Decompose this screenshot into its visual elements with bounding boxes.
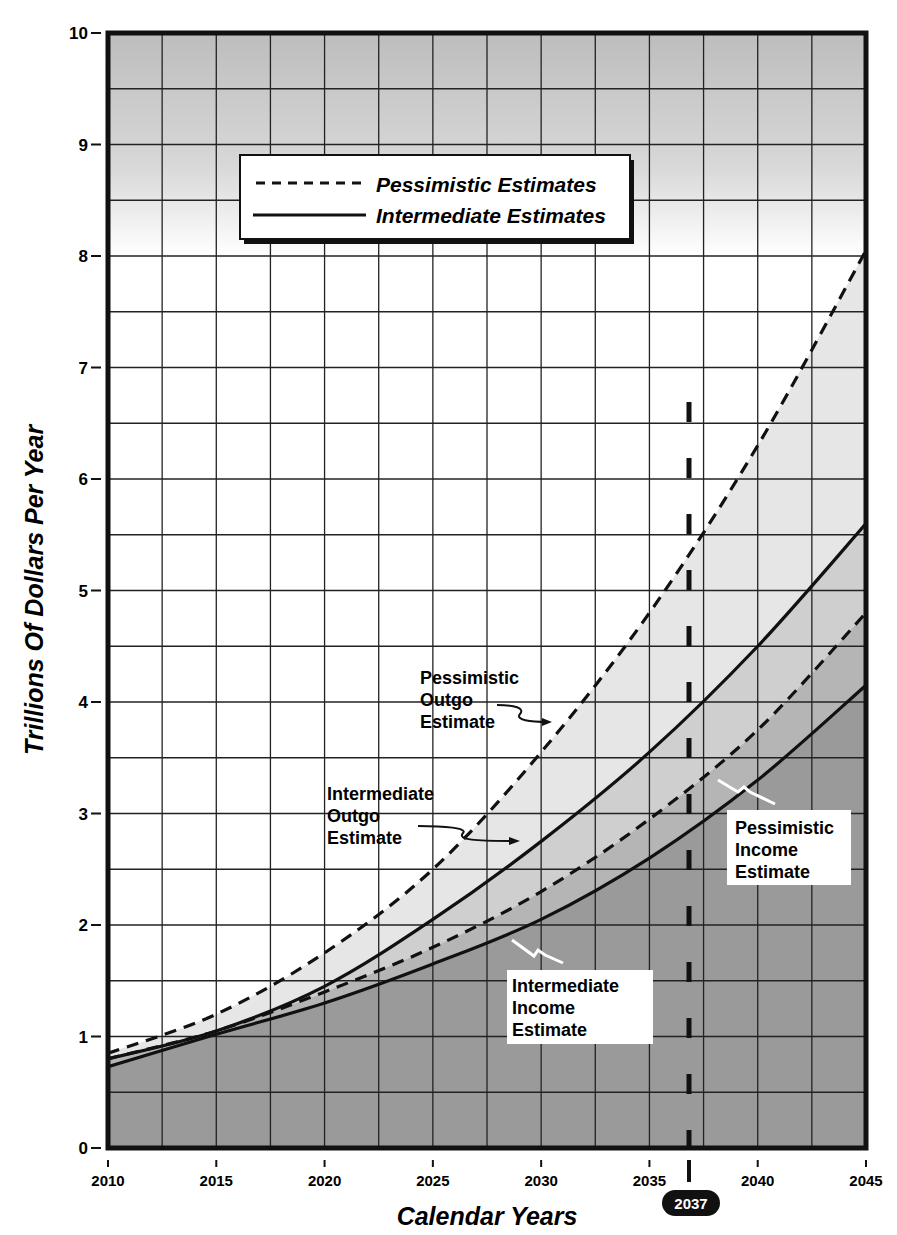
y-tick-label: 4: [79, 693, 89, 712]
chart: 012345678910 201020152020202520302035204…: [0, 0, 897, 1235]
legend: Pessimistic Estimates Intermediate Estim…: [240, 155, 634, 244]
svg-text:Estimate: Estimate: [512, 1020, 587, 1040]
svg-text:Outgo: Outgo: [327, 806, 380, 826]
svg-text:Pessimistic: Pessimistic: [735, 818, 834, 838]
y-tick-label: 9: [79, 136, 88, 155]
svg-text:Estimate: Estimate: [735, 862, 810, 882]
y-tick-label: 8: [79, 247, 88, 266]
y-tick-label: 1: [79, 1028, 88, 1047]
marker-label: 2037: [674, 1195, 707, 1212]
x-tick-label: 2025: [416, 1172, 449, 1189]
x-tick-label: 2035: [633, 1172, 666, 1189]
x-tick-label: 2045: [849, 1172, 882, 1189]
svg-text:Pessimistic: Pessimistic: [420, 668, 519, 688]
y-tick-label: 5: [79, 582, 88, 601]
svg-text:Intermediate: Intermediate: [327, 784, 434, 804]
legend-intermediate: Intermediate Estimates: [376, 204, 606, 227]
y-axis-title: Trillions Of Dollars Per Year: [20, 424, 48, 755]
x-tick-label: 2020: [308, 1172, 341, 1189]
svg-text:Estimate: Estimate: [327, 828, 402, 848]
svg-text:Income: Income: [512, 998, 575, 1018]
x-axis-title: Calendar Years: [397, 1202, 578, 1230]
y-tick-label: 6: [79, 470, 88, 489]
marker-2037-badge: 2037: [662, 1160, 720, 1216]
y-tick-label: 10: [69, 24, 88, 43]
svg-text:Intermediate: Intermediate: [512, 976, 619, 996]
svg-text:Income: Income: [735, 840, 798, 860]
x-tick-label: 2040: [741, 1172, 774, 1189]
svg-text:Estimate: Estimate: [420, 712, 495, 732]
y-axis: 012345678910: [69, 24, 101, 1158]
x-axis: 20102015202020252030203520402045: [91, 1160, 882, 1189]
x-tick-label: 2010: [91, 1172, 124, 1189]
y-tick-label: 3: [79, 805, 88, 824]
x-tick-label: 2030: [524, 1172, 557, 1189]
y-tick-label: 0: [79, 1139, 88, 1158]
x-tick-label: 2015: [200, 1172, 233, 1189]
y-tick-label: 7: [79, 359, 88, 378]
legend-pessimistic: Pessimistic Estimates: [376, 173, 597, 196]
svg-text:Outgo: Outgo: [420, 690, 473, 710]
y-tick-label: 2: [79, 916, 88, 935]
